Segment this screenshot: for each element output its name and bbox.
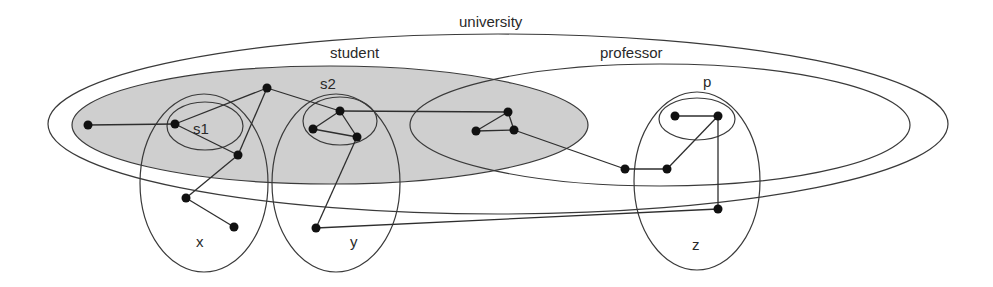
- set-hierarchy-diagram: university student professor s1 s2 p x y…: [0, 0, 993, 287]
- node: [171, 120, 180, 129]
- label-z: z: [692, 236, 700, 253]
- edge: [186, 198, 234, 227]
- label-p: p: [703, 73, 711, 90]
- regions: [48, 34, 948, 272]
- node: [714, 112, 723, 121]
- node: [234, 151, 243, 160]
- node: [336, 107, 345, 116]
- label-s1: s1: [193, 120, 209, 137]
- node: [621, 165, 630, 174]
- label-y: y: [350, 233, 358, 250]
- edge: [667, 116, 718, 169]
- node: [230, 223, 239, 232]
- node: [714, 205, 723, 214]
- node: [263, 84, 272, 93]
- node: [84, 121, 93, 130]
- region-p: [659, 98, 735, 140]
- label-s2: s2: [320, 75, 336, 92]
- node: [353, 133, 362, 142]
- edge: [316, 209, 718, 228]
- node: [504, 108, 513, 117]
- label-university: university: [459, 13, 523, 30]
- node: [312, 224, 321, 233]
- node: [671, 112, 680, 121]
- node: [472, 127, 481, 136]
- label-professor: professor: [600, 44, 663, 61]
- label-student: student: [330, 44, 380, 61]
- node: [309, 125, 318, 134]
- label-x: x: [196, 233, 204, 250]
- node: [182, 194, 191, 203]
- node: [663, 165, 672, 174]
- node: [510, 126, 519, 135]
